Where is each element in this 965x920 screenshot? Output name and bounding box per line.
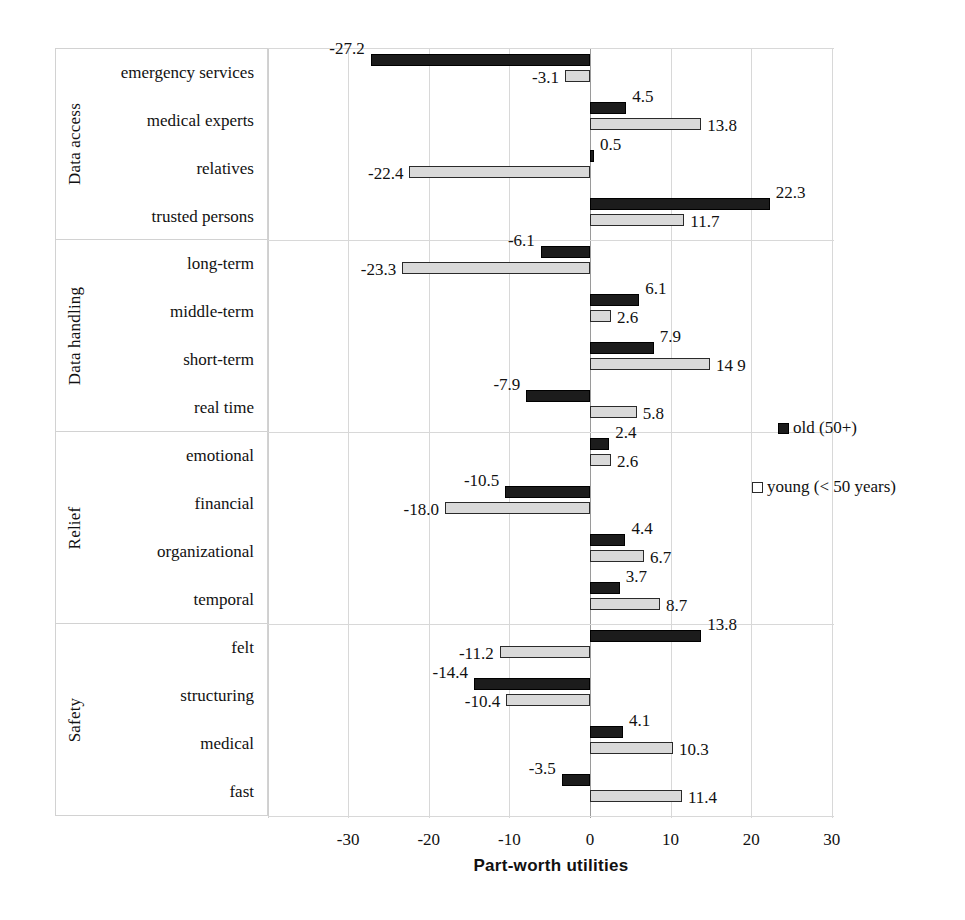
category-group: Safetyfeltstructuringmedicalfast [55, 624, 268, 816]
bar-row: 13.8-11.2 [268, 624, 965, 672]
bar-old [590, 534, 625, 546]
bar-row: 3.78.7 [268, 576, 965, 624]
bar-young [590, 454, 611, 466]
category-label: medical [99, 720, 258, 768]
x-axis-title: Part-worth utilities [268, 856, 834, 876]
bar-value-label: 2.6 [617, 453, 638, 470]
bar-young [590, 406, 637, 418]
bar-value-label: 13.8 [707, 616, 737, 633]
bar-value-label: -22.4 [368, 165, 403, 182]
bar-young [590, 310, 611, 322]
bar-row: -14.4-10.4 [268, 672, 965, 720]
bar-value-label: 4.5 [632, 88, 653, 105]
bar-value-label: -3.5 [529, 760, 556, 777]
category-label: structuring [99, 672, 258, 720]
bar-old [590, 438, 609, 450]
category-label: trusted persons [99, 193, 258, 241]
bar-value-label: -14.4 [433, 664, 468, 681]
bar-old [541, 246, 590, 258]
bar-value-label: 2.4 [615, 424, 636, 441]
bar-old [526, 390, 590, 402]
category-group: Data handlinglong-termmiddle-termshort-t… [55, 240, 268, 432]
bar-value-label: -18.0 [403, 501, 438, 518]
bar-young [590, 598, 660, 610]
bar-value-label: -10.5 [464, 472, 499, 489]
x-tick-label: 30 [823, 830, 840, 850]
bar-row: 0.5-22.4 [268, 144, 965, 192]
bar-young [445, 502, 590, 514]
legend-item-young: young (< 50 years) [752, 477, 896, 497]
bar-value-label: 4.4 [631, 520, 652, 537]
bar-row: 7.914 9 [268, 336, 965, 384]
bar-value-label: 4.1 [629, 712, 650, 729]
bar-old [562, 774, 590, 786]
x-axis: -30-20-100102030 [268, 818, 965, 858]
bar-value-label: 7.9 [660, 328, 681, 345]
bar-young [500, 646, 590, 658]
bar-young [506, 694, 590, 706]
legend-swatch-young-icon [752, 482, 763, 493]
bar-old [590, 582, 620, 594]
group-title: Data access [53, 49, 97, 239]
x-tick-label: -30 [337, 830, 360, 850]
bar-value-label: 22.3 [776, 184, 806, 201]
bar-value-label: 6.7 [650, 549, 671, 566]
group-level-list: emergency servicesmedical expertsrelativ… [99, 49, 258, 239]
bar-value-label: 14 9 [716, 357, 746, 374]
group-level-list: emotionalfinancialorganizationaltemporal [99, 432, 258, 623]
bar-row: -6.1-23.3 [268, 240, 965, 288]
category-label: felt [99, 624, 258, 672]
bar-old [590, 342, 654, 354]
category-axis: Data accessemergency servicesmedical exp… [55, 48, 268, 818]
category-label: relatives [99, 145, 258, 193]
bar-row: -27.2-3.1 [268, 48, 965, 96]
bar-value-label: 11.4 [688, 789, 717, 806]
bar-value-label: 2.6 [617, 309, 638, 326]
legend-label-young: young (< 50 years) [767, 477, 896, 497]
bar-old [505, 486, 590, 498]
group-title: Relief [53, 432, 97, 623]
group-title: Safety [53, 624, 97, 815]
bar-young [590, 118, 701, 130]
bar-value-label: 3.7 [626, 568, 647, 585]
bar-old [590, 102, 626, 114]
bar-value-label: 13.8 [707, 117, 737, 134]
x-tick-label: 20 [743, 830, 760, 850]
category-label: temporal [99, 576, 258, 624]
group-title-text: Data access [65, 103, 85, 185]
group-title-text: Safety [65, 697, 85, 742]
group-separator [268, 816, 834, 817]
bar-row: 4.110.3 [268, 720, 965, 768]
bar-young [565, 70, 590, 82]
bar-value-label: -3.1 [532, 69, 559, 86]
category-label: organizational [99, 528, 258, 576]
bar-old [590, 294, 639, 306]
bar-value-label: 10.3 [679, 741, 709, 758]
bar-young [409, 166, 590, 178]
bar-old [371, 54, 590, 66]
group-level-list: long-termmiddle-termshort-termreal time [99, 240, 258, 431]
category-label: fast [99, 768, 258, 816]
legend-label-old: old (50+) [793, 418, 857, 438]
bar-row: 2.42.6 [268, 432, 965, 480]
bar-row: 4.46.7 [268, 528, 965, 576]
legend-swatch-old-icon [778, 423, 789, 434]
category-group: Reliefemotionalfinancialorganizationalte… [55, 432, 268, 624]
category-label: middle-term [99, 288, 258, 336]
bar-young [590, 214, 684, 226]
group-title: Data handling [53, 240, 97, 431]
bar-value-label: -27.2 [329, 40, 364, 57]
group-title-text: Data handling [65, 286, 85, 384]
bar-old [590, 726, 623, 738]
bar-value-label: -6.1 [508, 232, 535, 249]
bar-young [590, 742, 673, 754]
bar-value-label: -23.3 [361, 261, 396, 278]
bar-young [590, 790, 682, 802]
bar-value-label: -7.9 [493, 376, 520, 393]
bar-value-label: 6.1 [645, 280, 666, 297]
bar-value-label: -11.2 [459, 645, 494, 662]
part-worth-utilities-chart: Data accessemergency servicesmedical exp… [0, 0, 965, 920]
legend-item-old: old (50+) [778, 418, 857, 438]
bar-old [590, 198, 770, 210]
bar-old [474, 678, 590, 690]
